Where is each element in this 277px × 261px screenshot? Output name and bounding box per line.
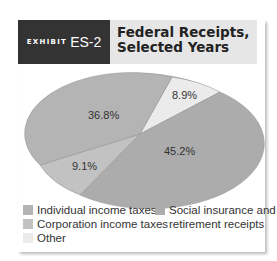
- legend-label: Corporation income taxes: [37, 217, 168, 231]
- legend-item-social-insurance: Social insurance and retirement receipts: [155, 203, 276, 231]
- label-corporation: 9.1%: [72, 160, 97, 172]
- legend-item-corporation: Corporation income taxes: [23, 217, 168, 231]
- label-other: 8.9%: [172, 89, 197, 101]
- legend-item-other: Other: [23, 231, 168, 245]
- legend-label: Social insurance and retirement receipts: [169, 203, 276, 231]
- label-individual: 36.8%: [88, 109, 119, 121]
- legend-label: Individual income taxes: [37, 203, 157, 217]
- legend-left: Individual income taxes Corporation inco…: [23, 203, 168, 245]
- swatch-individual: [23, 205, 33, 215]
- legend-label-line-1: Social insurance and: [169, 204, 276, 216]
- swatch-social-insurance: [155, 205, 165, 215]
- legend-label-line-2: retirement receipts: [169, 218, 264, 230]
- legend-right: Social insurance and retirement receipts: [155, 203, 276, 231]
- swatch-corporation: [23, 219, 33, 229]
- legend-label: Other: [37, 231, 66, 245]
- legend-item-individual: Individual income taxes: [23, 203, 168, 217]
- swatch-other: [23, 233, 33, 243]
- label-social-insurance: 45.2%: [164, 145, 195, 157]
